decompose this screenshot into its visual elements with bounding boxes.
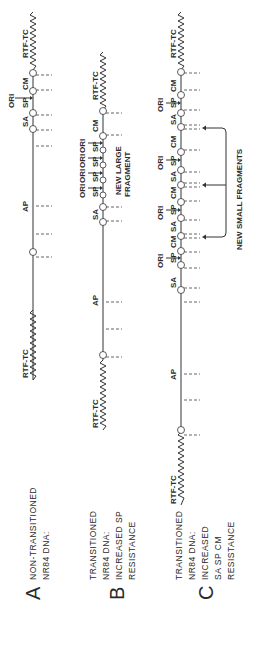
cm-label-4: CM — [169, 235, 178, 248]
sp-label-4: SP — [91, 186, 100, 197]
rtf-tc-label-top: RTF-TC — [21, 29, 30, 58]
sp-label: SP — [21, 97, 30, 108]
cm-label: CM — [21, 77, 30, 90]
rtf-tc-label-bottom: RTF-TC — [21, 349, 30, 378]
rtf-tc-label-bottom: RTF-TC — [91, 399, 100, 428]
rtf-tc-label-bottom: RTF-TC — [169, 475, 178, 504]
panel-a-title: A NON-TRANSITIONED NR84 DNA: — [22, 487, 51, 600]
svg-text:TRANSITIONED: TRANSITIONED — [174, 511, 184, 580]
ori-label-3: ORI — [78, 169, 87, 183]
ap-label: AP — [91, 294, 100, 306]
ori-label-2: ORI — [156, 156, 165, 170]
ori-label-1: ORI — [156, 98, 165, 112]
new-small-fragments-label: NEW SMALL FRAGMENTS — [235, 148, 244, 250]
svg-text:INCREASED SP: INCREASED SP — [114, 511, 124, 580]
ap-label: AP — [21, 200, 30, 212]
ori-label-4: ORI — [156, 254, 165, 268]
sp-label-1: SP — [169, 97, 178, 108]
ori-label-3: ORI — [156, 206, 165, 220]
rtf-tc-wavy-top — [30, 12, 36, 70]
sp-label-4: SP — [169, 252, 178, 263]
rtf-tc-wavy-bottom — [178, 432, 184, 505]
sp-label-3: SP — [169, 204, 178, 215]
rtf-tc-wavy-top — [100, 52, 106, 110]
ori-label-1: ORI — [78, 139, 87, 153]
rtf-tc-label-top: RTF-TC — [169, 29, 178, 58]
ori-label-2: ORI — [78, 154, 87, 168]
svg-text:NR84 DNA:: NR84 DNA: — [101, 531, 111, 580]
panel-c-title: C TRANSITIONED NR84 DNA: INCREASED SA SP… — [174, 511, 236, 600]
panel-c-labels: RTF-TC CM SP ORI SA CM SP ORI SA CM SP O… — [156, 29, 244, 504]
sp-label-2: SP — [169, 155, 178, 166]
rtf-tc-label-top: RTF-TC — [91, 71, 100, 100]
panel-letter-b: B — [106, 587, 128, 600]
new-large-fragment-line1: NEW LARGE — [114, 145, 123, 195]
sp-label-3: SP — [91, 171, 100, 182]
sa-label-2: SA — [169, 171, 178, 182]
rtf-tc-wavy-top — [178, 12, 184, 70]
svg-text:NON-TRANSITIONED: NON-TRANSITIONED — [28, 487, 38, 580]
panel-b-map — [88, 52, 122, 430]
cm-label-2: CM — [169, 135, 178, 148]
sp-label-1: SP — [91, 141, 100, 152]
sp-label-2: SP — [91, 156, 100, 167]
sa-label-1: SA — [169, 114, 178, 125]
panel-a-labels: RTF-TC CM SP ORI SA AP RTF-TC — [7, 29, 30, 378]
ori-label: ORI — [7, 94, 16, 108]
svg-text:INCREASED: INCREASED — [200, 526, 210, 580]
panel-letter-c: C — [195, 586, 217, 600]
plasmid-transition-diagram: RTF-TC CM SP ORI SA AP RTF-TC RTF-TC — [0, 0, 256, 667]
svg-text:RESISTANCE: RESISTANCE — [226, 521, 236, 580]
panel-b-labels: RTF-TC CM SP SP SP SP ORI ORI ORI ORI SA… — [78, 71, 132, 428]
cm-label: CM — [91, 119, 100, 132]
ap-label: AP — [169, 368, 178, 380]
ori-label-4: ORI — [78, 184, 87, 198]
new-large-fragment-line2: FRAGMENT — [123, 152, 132, 197]
sa-label-4: SA — [169, 277, 178, 288]
sa-label-3: SA — [169, 221, 178, 232]
fragments-bracket — [206, 128, 226, 237]
svg-text:TRANSITIONED: TRANSITIONED — [88, 511, 98, 580]
svg-text:SA SP CM: SA SP CM — [213, 536, 223, 580]
sa-label: SA — [91, 209, 100, 220]
svg-text:RESISTANCE: RESISTANCE — [127, 521, 137, 580]
svg-text:NR84 DNA:: NR84 DNA: — [41, 531, 51, 580]
panel-a-map — [15, 12, 52, 380]
cm-label-1: CM — [169, 79, 178, 92]
panel-letter-a: A — [22, 586, 44, 600]
svg-text:NR84 DNA:: NR84 DNA: — [187, 531, 197, 580]
rtf-tc-wavy-bottom — [100, 360, 106, 430]
sa-label: SA — [21, 116, 30, 127]
cm-label-3: CM — [169, 186, 178, 199]
panel-b-title: B TRANSITIONED NR84 DNA: INCREASED SP RE… — [88, 511, 137, 600]
